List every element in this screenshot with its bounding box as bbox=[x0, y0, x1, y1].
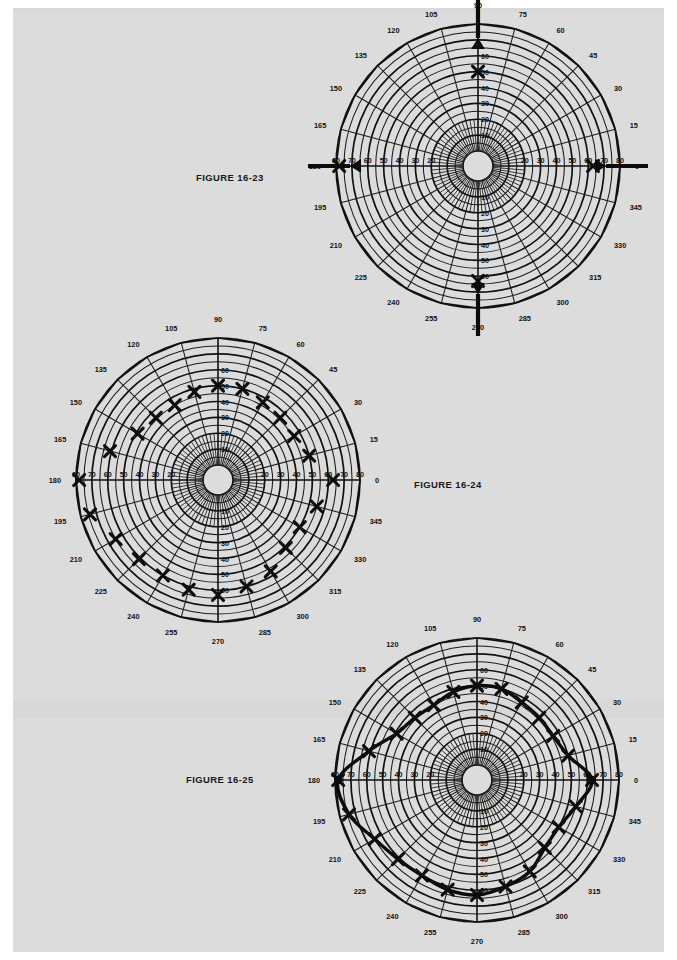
data-point-45deg bbox=[275, 412, 286, 423]
angle-tick-150: 150 bbox=[330, 84, 342, 93]
radial-tick-up-10: 10 bbox=[481, 131, 489, 140]
radial-tick-right-30: 30 bbox=[537, 156, 545, 165]
data-point-315deg bbox=[280, 542, 291, 553]
radial-tick-up-30: 30 bbox=[480, 713, 488, 722]
angle-tick-165: 165 bbox=[313, 735, 325, 744]
figure-16-24-label: FIGURE 16-24 bbox=[414, 479, 482, 490]
radial-tick-down-50: 50 bbox=[481, 256, 489, 265]
angle-tick-0: 0 bbox=[634, 776, 638, 785]
data-point-15deg bbox=[304, 450, 315, 461]
angle-tick-315: 315 bbox=[589, 273, 601, 282]
radial-tick-up-30: 30 bbox=[481, 99, 489, 108]
angle-tick-165: 165 bbox=[314, 121, 326, 130]
radial-tick-left-40: 40 bbox=[396, 156, 404, 165]
data-point-330deg bbox=[553, 822, 564, 833]
data-point-120deg bbox=[428, 700, 439, 711]
radial-tick-left-30: 30 bbox=[411, 156, 419, 165]
angle-tick-255: 255 bbox=[165, 628, 177, 637]
angle-tick-330: 330 bbox=[614, 241, 626, 250]
radial-tick-right-40: 40 bbox=[552, 770, 560, 779]
angle-tick-60: 60 bbox=[556, 640, 564, 649]
radial-tick-right-80: 80 bbox=[616, 156, 624, 165]
angle-tick-135: 135 bbox=[95, 365, 107, 374]
data-point-240deg bbox=[157, 570, 168, 581]
angle-tick-15: 15 bbox=[370, 435, 378, 444]
angle-tick-330: 330 bbox=[354, 555, 366, 564]
data-point-285deg bbox=[241, 581, 252, 592]
angle-tick-315: 315 bbox=[588, 887, 600, 896]
angle-tick-210: 210 bbox=[330, 241, 342, 250]
radial-tick-down-40: 40 bbox=[221, 555, 229, 564]
angle-tick-330: 330 bbox=[613, 855, 625, 864]
angle-tick-285: 285 bbox=[518, 928, 530, 937]
radial-tick-up-10: 10 bbox=[480, 745, 488, 754]
radial-tick-right-20: 20 bbox=[261, 470, 269, 479]
radial-tick-right-40: 40 bbox=[553, 156, 561, 165]
radial-tick-left-20: 20 bbox=[426, 770, 434, 779]
angle-tick-165: 165 bbox=[54, 435, 66, 444]
radial-tick-down-10: 10 bbox=[480, 807, 488, 816]
radial-tick-up-60: 60 bbox=[480, 666, 488, 675]
angle-tick-120: 120 bbox=[386, 640, 398, 649]
angle-tick-240: 240 bbox=[386, 912, 398, 921]
radial-tick-up-20: 20 bbox=[221, 429, 229, 438]
radial-tick-right-30: 30 bbox=[536, 770, 544, 779]
polar-chart-16-24: 0153045607590105120135150165180195210225… bbox=[40, 322, 400, 652]
radial-tick-down-20: 20 bbox=[480, 823, 488, 832]
data-point-120deg bbox=[169, 400, 180, 411]
radial-tick-up-60: 60 bbox=[221, 366, 229, 375]
polar-chart-16-23: 0153045607590105120135150165180195210225… bbox=[300, 8, 660, 338]
data-point-225deg bbox=[392, 854, 403, 865]
radial-tick-right-30: 30 bbox=[277, 470, 285, 479]
angle-tick-240: 240 bbox=[127, 612, 139, 621]
radial-tick-left-20: 20 bbox=[167, 470, 175, 479]
angle-tick-90: 90 bbox=[214, 315, 222, 324]
angle-tick-255: 255 bbox=[425, 314, 437, 323]
angle-tick-345: 345 bbox=[629, 817, 641, 826]
radial-tick-right-50: 50 bbox=[308, 470, 316, 479]
radial-tick-down-30: 30 bbox=[480, 839, 488, 848]
radial-tick-up-30: 30 bbox=[221, 413, 229, 422]
radial-tick-left-50: 50 bbox=[120, 470, 128, 479]
radial-tick-left-50: 50 bbox=[380, 156, 388, 165]
radial-tick-down-40: 40 bbox=[480, 855, 488, 864]
radial-tick-down-30: 30 bbox=[221, 539, 229, 548]
angle-tick-285: 285 bbox=[519, 314, 531, 323]
radial-tick-up-20: 20 bbox=[481, 115, 489, 124]
angle-tick-240: 240 bbox=[387, 298, 399, 307]
radial-tick-left-40: 40 bbox=[136, 470, 144, 479]
angle-tick-0: 0 bbox=[375, 476, 379, 485]
radial-tick-left-70: 70 bbox=[347, 770, 355, 779]
angle-tick-225: 225 bbox=[354, 887, 366, 896]
data-point-195deg bbox=[344, 809, 355, 820]
radial-tick-down-10: 10 bbox=[481, 193, 489, 202]
angle-tick-15: 15 bbox=[629, 735, 637, 744]
angle-tick-30: 30 bbox=[354, 398, 362, 407]
radial-tick-left-70: 70 bbox=[88, 470, 96, 479]
data-point-15deg bbox=[563, 750, 574, 761]
angle-tick-300: 300 bbox=[557, 298, 569, 307]
angle-tick-180: 180 bbox=[49, 476, 61, 485]
figure-16-25-label: FIGURE 16-25 bbox=[186, 774, 254, 785]
angle-tick-285: 285 bbox=[259, 628, 271, 637]
radial-tick-up-40: 40 bbox=[480, 698, 488, 707]
angle-tick-120: 120 bbox=[127, 340, 139, 349]
radial-tick-up-40: 40 bbox=[481, 84, 489, 93]
angle-tick-345: 345 bbox=[630, 203, 642, 212]
data-point-225deg bbox=[133, 554, 144, 565]
angle-tick-345: 345 bbox=[370, 517, 382, 526]
angle-tick-120: 120 bbox=[387, 26, 399, 35]
data-point-210deg bbox=[369, 834, 380, 845]
radial-tick-left-50: 50 bbox=[379, 770, 387, 779]
radial-tick-left-60: 60 bbox=[363, 770, 371, 779]
data-point-135deg bbox=[409, 712, 420, 723]
figure-16-23-label: FIGURE 16-23 bbox=[196, 172, 264, 183]
radial-tick-left-60: 60 bbox=[364, 156, 372, 165]
radial-tick-left-30: 30 bbox=[151, 470, 159, 479]
radial-tick-right-80: 80 bbox=[356, 470, 364, 479]
angle-tick-135: 135 bbox=[355, 51, 367, 60]
angle-tick-210: 210 bbox=[70, 555, 82, 564]
angle-tick-75: 75 bbox=[259, 324, 267, 333]
radial-tick-right-70: 70 bbox=[599, 770, 607, 779]
angle-tick-75: 75 bbox=[518, 624, 526, 633]
